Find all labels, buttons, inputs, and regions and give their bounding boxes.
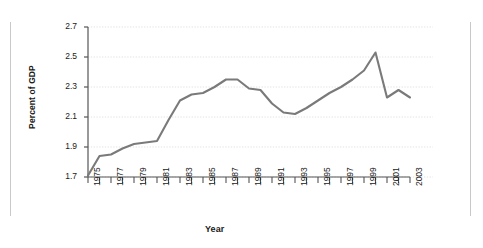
chart-figure: 2.72.52.32.11.91.7 197519771979198119831… (0, 0, 483, 248)
y-tick-label: 1.7 (55, 171, 77, 181)
x-tick-label: 1999 (368, 167, 378, 186)
x-tick-label: 1991 (276, 167, 286, 186)
data-series-line (88, 53, 410, 176)
x-tick-label: 1993 (299, 167, 309, 186)
x-axis-title: Year (205, 224, 224, 234)
x-tick-label: 1985 (207, 167, 217, 186)
x-tick-label: 1975 (92, 167, 102, 186)
y-tick-label: 1.9 (55, 141, 77, 151)
x-tick-label: 1981 (161, 167, 171, 186)
line-chart-plot (0, 0, 483, 248)
x-tick-label: 1977 (115, 167, 125, 186)
x-tick-label: 2001 (391, 167, 401, 186)
x-tick-label: 2003 (414, 167, 424, 186)
x-tick-label: 1983 (184, 167, 194, 186)
gridlines-group (88, 27, 433, 177)
x-tick-label: 1995 (322, 167, 332, 186)
y-tick-label: 2.3 (55, 81, 77, 91)
x-tick-label: 1989 (253, 167, 263, 186)
x-tick-label: 1979 (138, 167, 148, 186)
y-tick-label: 2.1 (55, 111, 77, 121)
y-tick-label: 2.5 (55, 51, 77, 61)
y-tick-label: 2.7 (55, 21, 77, 31)
x-tick-label: 1997 (345, 167, 355, 186)
y-axis-title: Percent of GDP (27, 37, 37, 157)
x-tick-label: 1987 (230, 167, 240, 186)
x-tick-marks-group (88, 177, 410, 183)
